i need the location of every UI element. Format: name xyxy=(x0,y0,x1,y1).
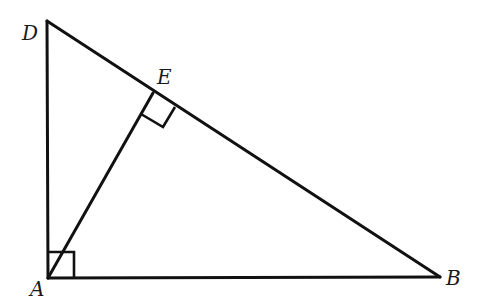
label-a: A xyxy=(28,277,44,301)
triangle-diagram: D E A B xyxy=(0,0,486,306)
label-b: B xyxy=(445,266,461,290)
segment-ae xyxy=(48,93,153,278)
label-e: E xyxy=(156,65,172,89)
right-angle-mark-e xyxy=(141,107,175,127)
segment-db xyxy=(47,21,440,277)
segment-ab xyxy=(48,277,440,278)
label-d: D xyxy=(21,21,38,45)
segment-da xyxy=(47,21,48,278)
